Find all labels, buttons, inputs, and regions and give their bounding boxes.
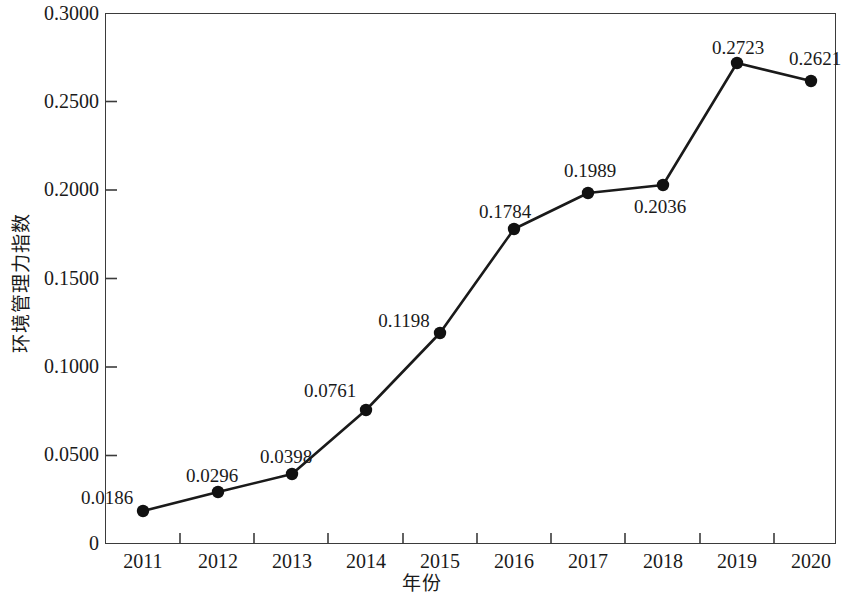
data-point-label: 0.0186: [52, 488, 162, 507]
y-tick-label: 0.0500: [33, 444, 99, 464]
y-tick-label: 0.3000: [33, 3, 99, 23]
y-tick-label: 0.1000: [33, 356, 99, 376]
data-point-label: 0.0296: [157, 466, 267, 485]
data-point-label: 0.1784: [450, 202, 560, 221]
chart-figure: 0.3000 0.2500 0.2000 0.1500 0.1000 0.050…: [0, 0, 844, 593]
data-point-label: 0.1198: [349, 311, 459, 330]
data-point-label: 0.0761: [275, 381, 385, 400]
data-point-label: 0.2036: [605, 197, 715, 216]
y-axis-title: 环境管理力指数: [6, 178, 33, 388]
y-tick-label: 0: [33, 533, 99, 553]
y-tick-label: 0.1500: [33, 268, 99, 288]
x-axis-title: 年份: [0, 568, 844, 593]
y-tick-label: 0.2000: [33, 179, 99, 199]
data-point-label: 0.0398: [231, 447, 341, 466]
data-point-label: 0.1989: [535, 161, 645, 180]
data-point-label: 0.2621: [760, 49, 844, 68]
y-tick-label: 0.2500: [33, 91, 99, 111]
